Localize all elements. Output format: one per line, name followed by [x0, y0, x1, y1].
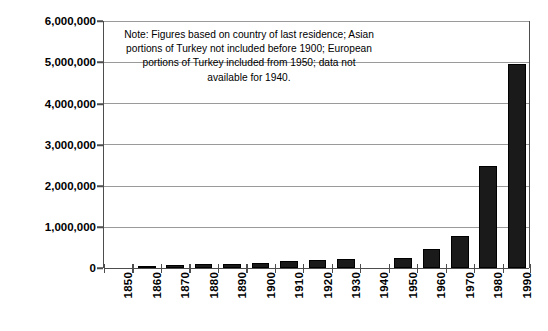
y-tick-label: 5,000,000 [0, 56, 96, 68]
y-tick-label: 4,000,000 [0, 98, 96, 110]
x-tick-label-1930: 1930 [350, 272, 362, 298]
y-tick-label: 3,000,000 [0, 139, 96, 151]
x-tick-label-1880: 1880 [208, 272, 220, 298]
bar-1860 [138, 266, 156, 268]
x-tick-label-1940: 1940 [378, 272, 390, 298]
x-tick-label-1980: 1980 [492, 272, 504, 298]
bar-1930 [337, 259, 355, 268]
figures-note: Note: Figures based on country of last r… [123, 28, 375, 85]
x-tick-label-1900: 1900 [265, 272, 277, 298]
x-tick-label-1960: 1960 [435, 272, 447, 298]
x-tick-label-1890: 1890 [236, 272, 248, 298]
x-tick-label-1910: 1910 [293, 272, 305, 298]
bar-1970 [451, 236, 469, 268]
x-tick-label-1950: 1950 [407, 272, 419, 298]
bar-1880 [195, 264, 213, 268]
x-tick-label-1860: 1860 [151, 272, 163, 298]
x-tick-label-1870: 1870 [179, 272, 191, 298]
x-axis-labels: 1850186018701880189019001910192019301940… [103, 272, 530, 330]
y-tick-label: 6,000,000 [0, 15, 96, 27]
bar-1990 [508, 64, 526, 268]
bar-1900 [252, 263, 270, 268]
bar-1910 [280, 261, 298, 268]
y-tick-label: 0 [0, 262, 96, 274]
bar-1980 [479, 166, 497, 268]
x-tick-label-1920: 1920 [322, 272, 334, 298]
y-tick-label: 1,000,000 [0, 221, 96, 233]
bar-1950 [394, 258, 412, 268]
x-tick-label-1970: 1970 [464, 272, 476, 298]
bar-1870 [166, 265, 184, 268]
x-tick-label-1850: 1850 [122, 272, 134, 298]
chart-container: 0 1,000,000 2,000,000 3,000,000 4,000,00… [0, 0, 548, 331]
y-tick-label: 2,000,000 [0, 180, 96, 192]
bar-1920 [309, 260, 327, 268]
bar-1960 [423, 249, 441, 268]
bar-1890 [223, 264, 241, 268]
x-tick-label-1990: 1990 [521, 272, 533, 298]
